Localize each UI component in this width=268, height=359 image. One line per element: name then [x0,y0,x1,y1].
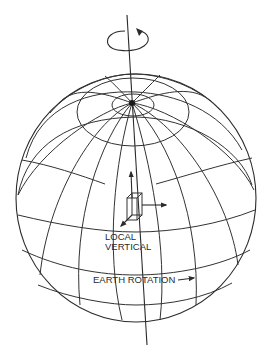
earth-rotation-text: EARTH ROTATION [93,274,175,285]
rotation-axis [127,15,147,345]
local-vertical-label-line2: VERTICAL [105,241,151,252]
earth-rotation-label: EARTH ROTATION [93,274,194,285]
cube-frame-icon [121,172,166,226]
earth-rotation-diagram: LOCAL VERTICAL EARTH ROTATION [0,0,268,359]
